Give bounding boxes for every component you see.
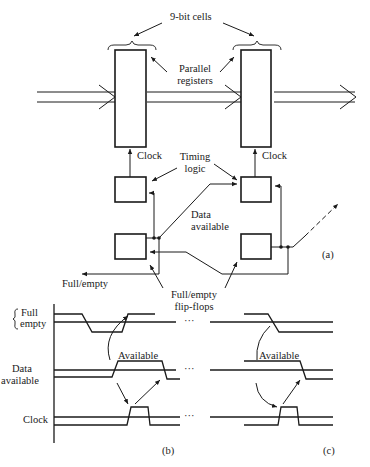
registers-label-line2: registers [170, 75, 220, 86]
ellipsis-full: ··· [184, 315, 195, 326]
flipflop-right [241, 234, 271, 259]
timing-logic-label-line1: Timing [177, 151, 213, 162]
available-label-b: Available [118, 350, 158, 361]
timing-logic-left [115, 177, 146, 202]
registers-arrow-left [151, 57, 167, 72]
ellipsis-data: ··· [184, 363, 195, 374]
ellipsis-clock: ··· [184, 410, 195, 421]
data-available-label-line2: available [191, 221, 229, 232]
signal-data-label-line1: Data [12, 363, 32, 374]
registers-label-line1: Parallel [170, 63, 220, 74]
cells-arrow-right [223, 23, 254, 36]
registers-arrow-right [220, 57, 234, 72]
signal-clock-label: Clock [23, 414, 48, 425]
clock-label-right: Clock [262, 150, 287, 161]
signal-empty-label: empty [20, 318, 46, 329]
part-b-label: (b) [162, 445, 174, 456]
signal-data-label-line2: available [1, 375, 39, 386]
clock-label-left: Clock [137, 150, 162, 161]
part-c-label: (c) [323, 445, 335, 456]
data-available-label-line1: Data [191, 209, 211, 220]
flipflops-label-line1: Full/empty [164, 289, 224, 300]
signal-full-label: Full [21, 307, 38, 318]
part-a-label: (a) [322, 249, 334, 260]
brace-right [233, 41, 281, 50]
brace-left [108, 41, 156, 50]
timing-logic-right [241, 177, 271, 202]
register-right [241, 50, 271, 147]
cells-arrow-left [134, 23, 162, 36]
fifo-diagram: 9-bit cells Parallel registers Clock Clo… [0, 0, 370, 467]
flipflop-left [115, 234, 146, 259]
register-left [115, 50, 146, 147]
flipflops-label-line2: flip-flops [164, 301, 224, 312]
available-label-c: Available [259, 350, 299, 361]
cells-label: 9-bit cells [170, 11, 212, 22]
full-empty-output-label: Full/empty [62, 278, 108, 289]
timing-logic-label-line2: logic [177, 163, 213, 174]
